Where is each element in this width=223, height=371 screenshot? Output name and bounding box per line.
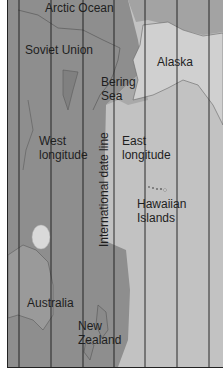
label-west: West xyxy=(39,135,66,148)
label-sea: Sea xyxy=(101,90,122,103)
label-east: East xyxy=(122,135,146,148)
label-west-longitude: longitude xyxy=(39,149,88,162)
label-international-date-line: International date line xyxy=(97,132,111,247)
label-islands: Islands xyxy=(137,212,175,225)
label-hawaiian: Hawaiian xyxy=(137,198,186,211)
label-east-longitude: longitude xyxy=(122,149,171,162)
label-bering: Bering xyxy=(101,76,136,89)
label-australia: Australia xyxy=(27,297,74,310)
label-zealand: Zealand xyxy=(78,334,121,347)
label-new: New xyxy=(78,320,102,333)
label-alaska: Alaska xyxy=(157,56,193,69)
label-arctic-ocean: Arctic Ocean xyxy=(45,2,114,15)
time-zone-map: Arctic Ocean Soviet Union Alaska Bering … xyxy=(7,0,223,368)
label-soviet-union: Soviet Union xyxy=(25,44,93,57)
